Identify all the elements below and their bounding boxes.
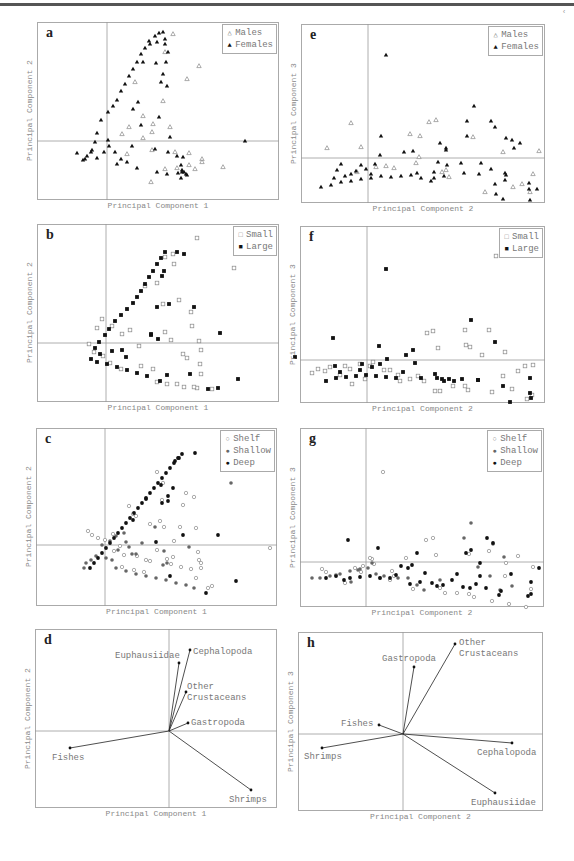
circle-marker-icon: ○ <box>491 433 498 445</box>
open-square-marker <box>165 382 169 386</box>
filled-square-marker <box>384 375 388 379</box>
legend-label: Deep <box>500 457 522 469</box>
open-circle-marker <box>361 564 364 567</box>
grey-dot-marker <box>116 548 120 552</box>
open-square-marker <box>185 356 189 360</box>
legend-label: Females <box>501 41 539 53</box>
vector-endpoint <box>250 789 253 792</box>
vector-label: Euphausiidae <box>115 651 180 662</box>
grey-dot-marker <box>127 545 131 549</box>
square-marker-icon: ■ <box>237 241 244 253</box>
open-circle-marker <box>155 470 158 473</box>
filled-square-marker <box>411 348 415 352</box>
grey-dot-marker <box>374 572 378 576</box>
filled-square-marker <box>447 377 451 381</box>
legend-label: Deep <box>233 457 255 469</box>
black-dot-marker <box>346 538 350 542</box>
filled-square-marker <box>385 357 389 361</box>
open-circle-marker <box>192 495 195 498</box>
open-square-marker <box>199 348 203 352</box>
open-circle-marker <box>194 526 197 529</box>
filled-square-marker <box>162 269 166 273</box>
black-dot-marker <box>216 533 220 537</box>
open-circle-marker <box>178 525 181 528</box>
black-dot-marker <box>176 456 180 460</box>
grey-dot-marker <box>338 572 342 576</box>
open-square-marker <box>516 369 520 373</box>
open-circle-marker <box>172 539 175 542</box>
black-dot-marker <box>464 551 468 555</box>
x-axis-label: Principal Component 2 <box>300 608 544 617</box>
open-square-marker <box>348 367 352 371</box>
open-square-marker <box>425 331 429 335</box>
grey-dot-marker <box>100 543 104 547</box>
black-dot-marker <box>415 551 419 555</box>
filled-square-marker <box>358 368 362 372</box>
filled-square-marker <box>501 384 505 388</box>
filled-square-marker <box>333 364 337 368</box>
filled-square-marker <box>354 374 358 378</box>
black-dot-marker <box>441 583 445 587</box>
black-dot-marker <box>100 551 104 555</box>
filled-square-marker <box>145 374 149 378</box>
open-square-marker <box>199 372 203 376</box>
open-square-marker <box>210 387 214 391</box>
open-circle-marker <box>368 556 371 559</box>
grey-dot-marker <box>130 552 134 556</box>
filled-square-marker <box>119 313 123 317</box>
black-dot-marker <box>96 556 100 560</box>
filled-square-marker <box>469 318 473 322</box>
filled-square-marker <box>216 386 220 390</box>
legend-item: ○Shelf <box>224 433 271 445</box>
filled-square-marker <box>163 250 167 254</box>
legend: ○Shelf●Shallow●Deep <box>220 430 275 472</box>
vector-endpoint <box>178 662 181 665</box>
panel-d: CephalopodaEuphausiidaeOtherCrustaceansG… <box>35 629 277 808</box>
vector-endpoint <box>494 792 497 795</box>
open-square-marker <box>169 338 173 342</box>
filled-square-marker <box>124 355 128 359</box>
open-square-marker <box>463 384 467 388</box>
open-circle-marker <box>438 586 441 589</box>
open-circle-marker <box>196 550 199 553</box>
black-dot-marker <box>378 576 382 580</box>
open-circle-marker <box>472 595 475 598</box>
panel-letter: h <box>307 635 315 651</box>
legend-label: Shallow <box>233 445 271 457</box>
black-dot-marker <box>234 579 238 583</box>
black-dot-marker <box>152 486 156 490</box>
filled-square-marker <box>95 360 99 364</box>
panel-letter: g <box>309 431 316 447</box>
open-circle-marker <box>324 570 327 573</box>
grey-dot-marker <box>124 569 128 573</box>
black-dot-marker <box>537 566 541 570</box>
vector-label: Shrimps <box>229 795 267 806</box>
panel-c: c○Shelf●Shallow●DeepPrincipal Component … <box>36 428 277 606</box>
open-square-marker <box>468 345 472 349</box>
filled-square-marker <box>364 373 368 377</box>
open-circle-marker <box>443 591 446 594</box>
page-corner-mark: ‹ <box>562 8 566 16</box>
triangle-marker-icon: ▲ <box>226 39 233 51</box>
open-square-marker <box>480 353 484 357</box>
grey-dot-marker <box>415 583 419 587</box>
black-dot-marker <box>112 536 116 540</box>
open-square-marker <box>408 377 412 381</box>
open-square-marker <box>310 371 314 375</box>
filled-square-marker <box>115 365 119 369</box>
legend-label: Shelf <box>233 433 260 445</box>
open-circle-marker <box>132 568 135 571</box>
filled-square-marker <box>125 368 129 372</box>
open-circle-marker <box>118 544 121 547</box>
open-square-marker <box>398 379 402 383</box>
open-square-marker <box>451 384 455 388</box>
open-square-marker <box>198 362 202 366</box>
grey-dot-marker <box>370 561 374 565</box>
open-circle-marker <box>424 538 427 541</box>
black-dot-marker <box>140 501 144 505</box>
grey-dot-marker <box>104 556 108 560</box>
open-square-marker <box>172 262 176 266</box>
open-square-marker <box>175 382 179 386</box>
open-circle-marker <box>268 546 271 549</box>
vector-label: Euphausiidae <box>471 798 536 809</box>
